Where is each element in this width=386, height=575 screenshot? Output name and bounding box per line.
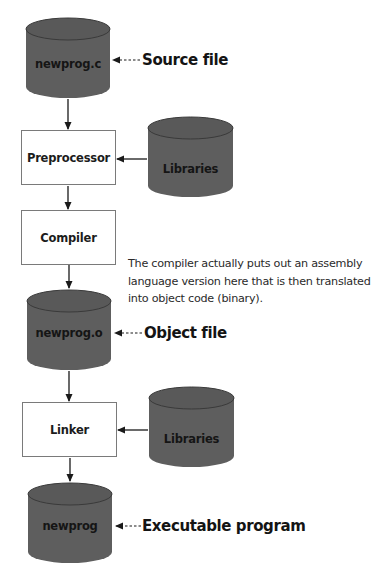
cylinder-label: Libraries — [148, 432, 235, 446]
cylinder-label: Libraries — [147, 162, 234, 176]
annotation-line: into object code (binary). — [128, 290, 386, 308]
callout-source-file: Source file — [142, 51, 228, 69]
compiler-annotation: The compiler actually puts out an assemb… — [128, 255, 386, 308]
cylinder-label: newprog — [27, 519, 113, 533]
process-compiler: Compiler — [21, 210, 116, 265]
cylinder-label: newprog.o — [26, 326, 112, 340]
process-linker: Linker — [22, 402, 117, 457]
cylinder-source-file: newprog.c — [25, 17, 111, 99]
cylinder-label: newprog.c — [25, 57, 111, 71]
annotation-line: language version here that is then trans… — [128, 273, 386, 291]
callout-executable-program: Executable program — [142, 517, 305, 535]
cylinder-executable: newprog — [27, 482, 113, 564]
cylinder-libraries-2: Libraries — [148, 386, 235, 468]
database-cylinder-icon — [148, 386, 235, 468]
process-preprocessor: Preprocessor — [21, 130, 116, 185]
cylinder-object-file: newprog.o — [26, 289, 112, 371]
cylinder-libraries-1: Libraries — [147, 116, 234, 198]
annotation-line: The compiler actually puts out an assemb… — [128, 255, 386, 273]
callout-object-file: Object file — [144, 324, 227, 342]
database-cylinder-icon — [147, 116, 234, 198]
build-pipeline-diagram: newprog.c Preprocessor Libraries Compile… — [0, 0, 386, 575]
